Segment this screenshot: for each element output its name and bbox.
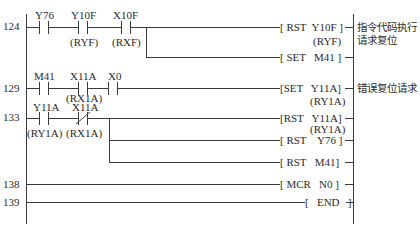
contact-no-y10f — [79, 21, 88, 34]
step-number: 139 — [3, 196, 20, 208]
output-rst-y76: [ RST Y76 ] — [280, 134, 342, 146]
step-number: 129 — [3, 82, 20, 94]
device-label: X11A — [70, 70, 97, 82]
alias-label: (RX1A) — [66, 127, 102, 140]
step-number: 133 — [3, 111, 20, 123]
alias-label: (RY1A) — [27, 127, 63, 140]
alias-label: (RY1A) — [310, 95, 346, 108]
comment: 请求复位 — [357, 34, 398, 46]
contact-nc-x11a — [76, 112, 90, 125]
rung-139: 139 [ END ] — [3, 196, 353, 208]
rung-124: 124 Y76 Y10F (RYF) X10F (RXF) [ RST Y10F… — [3, 9, 418, 63]
rung-138: 138 [ MCR N0 ] — [3, 178, 353, 190]
contact-no-y11a — [40, 112, 49, 125]
output-end: [ END ] — [305, 196, 351, 208]
step-number: 124 — [3, 20, 20, 32]
output-set-m41: [ SET M41 ] — [280, 51, 341, 63]
device-label: Y11A — [33, 101, 60, 113]
alias-label: (RXF) — [112, 36, 141, 49]
output-rst-y10f: [ RST Y10F ] — [280, 21, 343, 33]
rung-129: 129 M41 X11A (RX1A) X0 [SET Y11A] (RY1A)… — [3, 70, 418, 108]
output-set-y11a: [SET Y11A] — [280, 82, 341, 94]
device-label: Y76 — [35, 9, 54, 21]
device-label: X11A — [72, 101, 99, 113]
device-label: M41 — [34, 70, 55, 82]
device-label: X10F — [113, 9, 138, 21]
output-rst-m41: [ RST M41] — [280, 156, 339, 168]
device-label: Y10F — [71, 9, 96, 21]
step-number: 138 — [3, 178, 20, 190]
device-label: X0 — [108, 70, 122, 82]
rung-133: 133 Y11A (RY1A) X11A (RX1A) [RST Y11A] (… — [3, 101, 353, 168]
comment: 错误复位请求 — [357, 82, 418, 94]
contact-no-y76 — [40, 21, 49, 34]
contact-no-x0 — [109, 82, 118, 95]
alias-label: (RYF) — [313, 35, 341, 48]
ladder-diagram: 124 Y76 Y10F (RYF) X10F (RXF) [ RST Y10F… — [0, 0, 420, 229]
output-mcr-n0: [ MCR N0 ] — [280, 178, 339, 190]
alias-label: (RYF) — [70, 36, 98, 49]
contact-no-x10f — [122, 21, 131, 34]
comment: 指令代码执行 — [357, 21, 418, 33]
contact-no-m41 — [40, 82, 49, 95]
